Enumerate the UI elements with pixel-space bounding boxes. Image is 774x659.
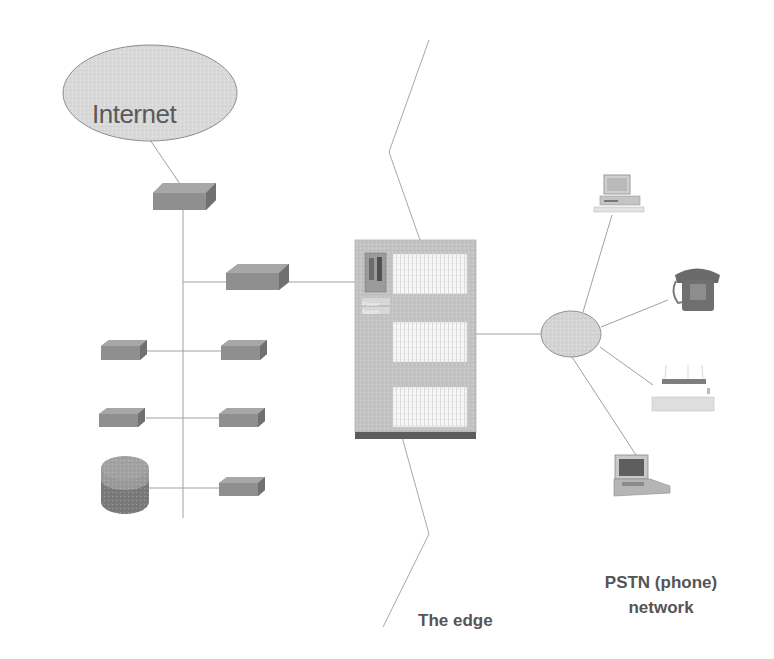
router-top <box>153 183 216 210</box>
edge-boundary-top <box>389 40 429 240</box>
edge-label: The edge <box>418 611 493 631</box>
edge-boundary-bottom <box>383 437 429 627</box>
pstn-to-computer-link <box>583 215 612 312</box>
pstn-cloud <box>541 311 601 357</box>
network-diagram: Internet Power Switch The edge PSTN (pho… <box>0 0 774 659</box>
internet-to-router-link <box>148 137 180 184</box>
database-icon <box>101 456 149 514</box>
router-mid <box>226 264 289 290</box>
pstn-to-laptop-link <box>572 357 636 455</box>
pstn-label: PSTN (phone) network <box>586 570 736 620</box>
telephone-icon <box>673 269 720 312</box>
lan-device-1-left <box>101 340 147 360</box>
lan-device-2-left <box>99 408 145 427</box>
edge-switch-cabinet <box>355 240 476 439</box>
fax-printer-icon <box>652 365 714 411</box>
desktop-computer-icon <box>594 175 644 212</box>
switch-label-line-1: Power <box>362 300 380 308</box>
pstn-label-line-1: PSTN (phone) <box>586 570 736 595</box>
pstn-label-line-2: network <box>586 595 736 620</box>
switch-label: Power Switch <box>362 300 380 316</box>
lan-device-1-right <box>221 340 267 360</box>
laptop-icon <box>614 455 670 496</box>
internet-label: Internet <box>92 99 176 130</box>
pstn-to-fax-link <box>600 347 653 385</box>
switch-label-line-2: Switch <box>362 308 380 316</box>
lan-device-2-right <box>219 408 265 427</box>
pstn-to-phone-link <box>601 300 668 327</box>
lan-device-3-right <box>219 477 265 496</box>
